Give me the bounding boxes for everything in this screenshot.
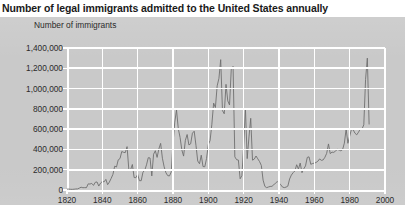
y-axis-tick-labels: 0200,000400,000600,000800,0001,000,0001,…	[0, 0, 63, 224]
y-tick-mark	[63, 68, 67, 70]
y-tick-mark	[63, 149, 67, 151]
x-tick-label: 1980	[340, 195, 358, 205]
x-tick-mark	[208, 190, 210, 194]
y-tick-label: 1,200,000	[26, 63, 63, 73]
gridline-vertical	[349, 48, 351, 190]
chart-figure: Number of legal immigrants admitted to t…	[0, 0, 409, 224]
gridline-vertical	[137, 48, 139, 190]
y-tick-mark	[63, 128, 67, 130]
x-tick-label: 1960	[305, 195, 323, 205]
gridline-vertical	[384, 48, 386, 190]
x-tick-label: 1940	[270, 195, 288, 205]
y-tick-mark	[63, 169, 67, 171]
x-tick-label: 1840	[93, 195, 111, 205]
gridline-horizontal	[67, 108, 385, 110]
y-tick-label: 600,000	[33, 124, 63, 134]
x-tick-mark	[349, 190, 351, 194]
x-tick-mark	[243, 190, 245, 194]
x-tick-label: 2000	[376, 195, 394, 205]
x-tick-mark	[102, 190, 104, 194]
x-tick-label: 1860	[128, 195, 146, 205]
gridline-vertical	[278, 48, 280, 190]
gridline-vertical	[172, 48, 174, 190]
x-tick-label: 1900	[199, 195, 217, 205]
x-tick-label: 1920	[234, 195, 252, 205]
gridline-vertical	[314, 48, 316, 190]
y-tick-label: 1,400,000	[26, 43, 63, 53]
y-tick-label: 800,000	[33, 104, 63, 114]
x-tick-mark	[384, 190, 386, 194]
gridline-horizontal	[67, 67, 385, 69]
x-tick-mark	[137, 190, 139, 194]
x-tick-label: 1880	[164, 195, 182, 205]
y-tick-mark	[63, 108, 67, 110]
gridline-vertical	[102, 48, 104, 190]
plot-area	[67, 48, 385, 190]
y-tick-mark	[63, 47, 67, 49]
y-tick-mark	[63, 88, 67, 90]
x-tick-mark	[278, 190, 280, 194]
y-tick-label: 400,000	[33, 144, 63, 154]
x-tick-label: 1820	[58, 195, 76, 205]
x-tick-mark	[66, 190, 68, 194]
gridline-horizontal	[67, 169, 385, 171]
gridline-vertical	[208, 48, 210, 190]
gridline-horizontal	[67, 128, 385, 130]
y-tick-label: 200,000	[33, 165, 63, 175]
x-axis-line	[66, 190, 386, 192]
x-tick-mark	[172, 190, 174, 194]
x-tick-mark	[314, 190, 316, 194]
gridline-horizontal	[67, 47, 385, 49]
y-tick-label: 1,000,000	[26, 84, 63, 94]
gridline-horizontal	[67, 149, 385, 151]
gridline-horizontal	[67, 88, 385, 90]
gridline-vertical	[243, 48, 245, 190]
